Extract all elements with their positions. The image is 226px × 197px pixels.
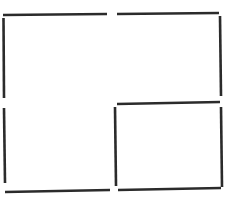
line-diagram [0, 0, 226, 197]
bottom-right-horizontal-segment [118, 188, 221, 190]
diagram-svg [0, 0, 226, 197]
top-left-horizontal-segment [3, 14, 107, 15]
left-lower-vertical-segment [4, 108, 5, 183]
bottom-left-horizontal-segment [5, 190, 110, 192]
top-right-horizontal-segment [117, 13, 219, 14]
middle-horizontal-segment [117, 102, 220, 104]
inner-left-vertical-segment [115, 107, 116, 186]
right-upper-vertical-segment [220, 16, 221, 96]
left-upper-vertical-segment [4, 18, 5, 98]
right-lower-vertical-segment [221, 107, 222, 187]
